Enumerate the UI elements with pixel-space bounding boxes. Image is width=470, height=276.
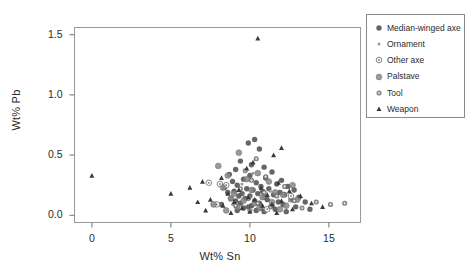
legend-marker-icon [372, 86, 386, 100]
plot-frame [75, 28, 361, 223]
y-tick-label: 0.0 [33, 208, 63, 220]
legend-marker-icon [372, 53, 386, 67]
x-tick-label: 0 [77, 232, 107, 244]
legend-item-label: Tool [386, 89, 403, 98]
x-tick-label: 5 [156, 232, 186, 244]
legend-item-label: Weapon [386, 105, 419, 114]
x-tick-label: 10 [235, 232, 265, 244]
legend-marker-icon [372, 21, 386, 35]
legend-item-median-winged-axe[interactable]: Median-winged axe [372, 20, 461, 36]
x-tick-label: 15 [314, 232, 344, 244]
legend-marker-icon [372, 37, 386, 51]
scatter-plot-figure: Wt% Pb Wt% Sn 0.00.51.01.5051015 Median-… [0, 0, 470, 276]
legend-item-label: Other axe [386, 56, 424, 65]
legend-item-label: Palstave [386, 72, 420, 81]
y-tick-label: 1.0 [33, 88, 63, 100]
legend-item-tool[interactable]: Tool [372, 85, 403, 101]
legend-item-weapon[interactable]: Weapon [372, 101, 419, 117]
legend-item-ornament[interactable]: Ornament [372, 36, 425, 52]
legend-item-other-axe[interactable]: Other axe [372, 52, 424, 68]
y-tick-label: 1.5 [33, 28, 63, 40]
legend-marker-icon [372, 102, 386, 116]
legend-marker-icon [372, 70, 386, 84]
data-points [89, 36, 347, 215]
legend-item-palstave[interactable]: Palstave [372, 69, 420, 85]
legend-item-label: Median-winged axe [386, 24, 461, 33]
legend-item-label: Ornament [386, 40, 425, 49]
x-axis-title: Wt% Sn [160, 250, 280, 262]
y-axis-title: Wt% Pb [10, 75, 22, 145]
plot-border [75, 28, 361, 223]
legend: Median-winged axeOrnamentOther axePalsta… [366, 14, 465, 118]
y-tick-label: 0.5 [33, 148, 63, 160]
